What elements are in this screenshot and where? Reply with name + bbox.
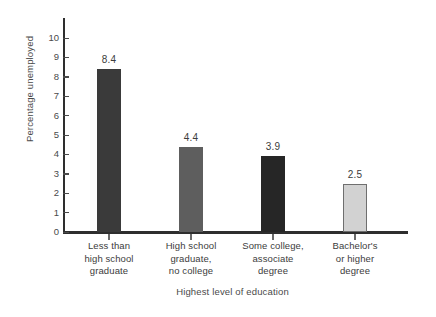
x-axis-category-label-line: or higher	[307, 253, 403, 266]
bar-chart: Percentage unemployed Highest level of e…	[0, 0, 436, 317]
y-axis-tick: 9	[38, 51, 69, 63]
y-axis-tick-label: 7	[54, 90, 59, 102]
y-axis-tick: 6	[38, 110, 69, 122]
y-axis-tick: 2	[38, 187, 69, 199]
bar	[343, 184, 367, 233]
y-axis-tick-mark	[63, 154, 69, 155]
y-axis-tick-label: 5	[54, 129, 59, 141]
y-axis-tick-label: 1	[54, 207, 59, 219]
y-axis-tick-mark	[63, 212, 69, 213]
y-axis-tick-label: 8	[54, 71, 59, 83]
bar	[261, 156, 285, 232]
y-axis-tick: 4	[38, 148, 69, 160]
y-axis-tick: 3	[38, 168, 69, 180]
y-axis-tick-label: 2	[54, 187, 59, 199]
y-axis-tick-mark	[63, 57, 69, 58]
y-axis-tick: 1	[38, 207, 69, 219]
bar-value-label: 8.4	[82, 54, 136, 65]
y-axis-tick-label: 9	[54, 51, 59, 63]
y-axis-tick-label: 3	[54, 168, 59, 180]
bar	[97, 69, 121, 232]
y-axis-tick-mark	[63, 96, 69, 97]
bar-value-label: 3.9	[246, 141, 300, 152]
y-axis-tick: 5	[38, 129, 69, 141]
y-axis-tick-label: 6	[54, 110, 59, 122]
x-axis-category-label-line: Bachelor's	[307, 240, 403, 253]
bar-value-label: 2.5	[328, 169, 382, 180]
y-axis-tick-mark	[63, 232, 69, 233]
y-axis-tick: 7	[38, 90, 69, 102]
y-axis-tick-mark	[63, 115, 69, 116]
y-axis-tick-mark	[63, 76, 69, 77]
x-axis-title: Highest level of education	[55, 286, 410, 297]
y-axis-line	[63, 18, 65, 233]
y-axis-tick: 10	[38, 32, 69, 44]
bar	[179, 147, 203, 232]
y-axis-tick-label: 0	[54, 226, 59, 238]
bar-value-label: 4.4	[164, 132, 218, 143]
y-axis-tick-mark	[63, 193, 69, 194]
y-axis-tick-label: 10	[48, 32, 59, 44]
y-axis-tick: 8	[38, 71, 69, 83]
y-axis-tick-mark	[63, 38, 69, 39]
x-axis-category-label-line: degree	[307, 265, 403, 278]
y-axis-tick: 0	[38, 226, 69, 238]
x-axis-category-label: Bachelor'sor higherdegree	[307, 240, 403, 278]
y-axis-title: Percentage unemployed	[24, 0, 38, 205]
y-axis-tick-label: 4	[54, 148, 59, 160]
y-axis-tick-mark	[63, 173, 69, 174]
y-axis-tick-mark	[63, 135, 69, 136]
